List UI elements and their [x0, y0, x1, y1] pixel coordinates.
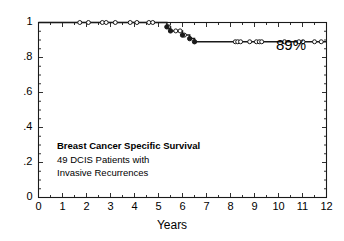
- caption-line-2: 49 DCIS Patients with: [57, 153, 200, 167]
- event-marker: [168, 29, 172, 33]
- caption-line-3: Invasive Recurrences: [57, 166, 200, 180]
- censored-marker: [239, 40, 243, 44]
- event-marker: [165, 25, 169, 29]
- censored-marker: [174, 29, 178, 33]
- censored-marker: [104, 21, 108, 25]
- censored-marker: [151, 21, 155, 25]
- survival-chart-figure: 89% Breast Cancer Specific Survival 49 D…: [0, 0, 344, 241]
- chart-caption: Breast Cancer Specific Survival 49 DCIS …: [57, 139, 200, 180]
- censored-marker: [319, 40, 323, 44]
- censored-marker: [128, 21, 132, 25]
- censored-marker: [248, 40, 252, 44]
- y-tick-label: .6: [5, 85, 33, 97]
- censored-marker: [178, 29, 182, 33]
- y-tick-label: 1: [5, 15, 33, 27]
- censored-marker: [135, 21, 139, 25]
- y-tick-label: .2: [5, 155, 33, 167]
- censored-marker: [78, 21, 82, 25]
- x-tick-label: 12: [312, 200, 342, 212]
- event-marker: [188, 36, 192, 40]
- y-tick-label: .4: [5, 120, 33, 132]
- caption-line-1: Breast Cancer Specific Survival: [57, 139, 200, 153]
- final-survival-label: 89%: [276, 36, 306, 53]
- event-marker: [180, 33, 184, 37]
- x-axis-title: Years: [0, 218, 344, 232]
- y-tick-label: 0: [5, 190, 33, 202]
- censored-marker: [113, 21, 117, 25]
- event-marker: [192, 40, 196, 44]
- y-tick-label: .8: [5, 50, 33, 62]
- censored-marker: [313, 40, 317, 44]
- censored-marker: [86, 21, 90, 25]
- censored-marker: [260, 40, 264, 44]
